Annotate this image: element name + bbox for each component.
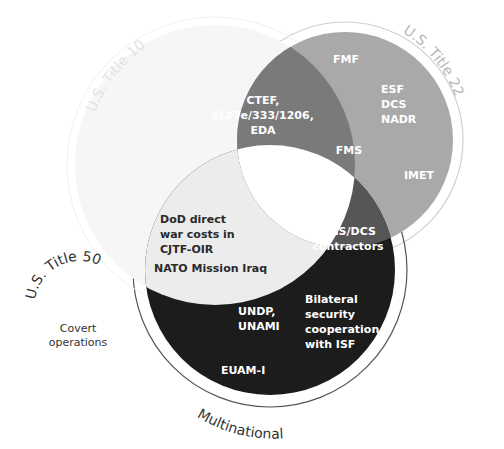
region-item-cjtf-oir: CJTF-OIR (160, 243, 214, 256)
region-item-fms: FMS (336, 144, 362, 157)
title50-item: Covert (60, 322, 97, 335)
region-item-unami: UNAMI (238, 320, 280, 333)
multinational-label: Multinational (195, 405, 284, 441)
region-item-nato: NATO Mission Iraq (154, 262, 267, 275)
venn-diagram: U.S. Title 10 U.S. Title 22 Multinationa… (0, 0, 504, 449)
region-item-euam: EUAM-I (221, 364, 265, 377)
region-item-undp: UNDP, (238, 305, 276, 318)
region-item-security: security (305, 308, 355, 321)
region-item-war-costs: war costs in (160, 228, 235, 241)
region-item-fmf: FMF (333, 53, 359, 66)
region-item-with-isf: with ISF (305, 338, 355, 351)
region-item-dcs: DCS (381, 98, 406, 111)
region-item-fms-dcs: FMS/DCS (320, 225, 376, 238)
region-item-bilateral: Bilateral (305, 293, 358, 306)
region-item-cooperation: cooperation (305, 323, 379, 336)
region-item-dod-direct: DoD direct (160, 213, 226, 226)
title50-item: operations (49, 336, 108, 349)
region-item-nadr: NADR (381, 113, 417, 126)
region-item-eda: EDA (250, 124, 276, 137)
region-item-esf: ESF (381, 83, 404, 96)
region-item-sections: §127e/333/1206, (212, 109, 314, 122)
region-item-imet: IMET (404, 169, 435, 182)
title50-label: U.S. Title 50 (22, 248, 103, 301)
region-item-ctef: CTEF, (246, 94, 279, 107)
region-item-contractors: contractors (312, 240, 384, 253)
